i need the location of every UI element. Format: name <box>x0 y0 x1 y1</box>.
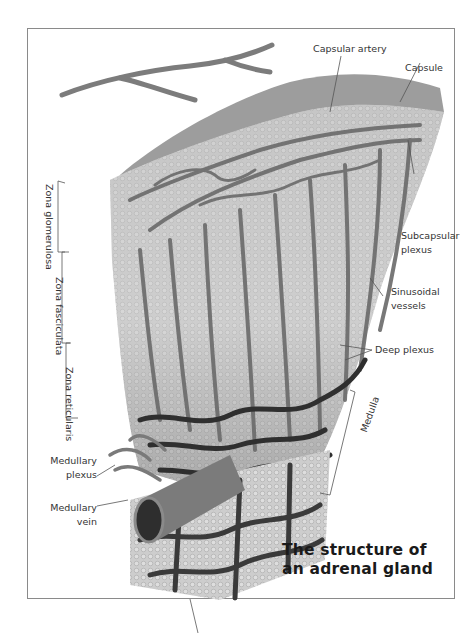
figure-title-line1: The structure of <box>282 541 433 560</box>
adrenal-gland-illustration <box>0 0 474 633</box>
label-zona-glomerulosa: Zona glomerulosa <box>44 184 55 270</box>
label-medullary-vein-line2: vein <box>40 516 97 528</box>
label-sinusoidal-vessels-line2: vessels <box>391 300 426 312</box>
label-zona-reticularis: Zona reticularis <box>64 367 75 441</box>
figure-title-line2: an adrenal gland <box>282 560 433 579</box>
label-deep-plexus: Deep plexus <box>375 344 434 356</box>
label-capsular-artery: Capsular artery <box>313 43 387 55</box>
figure-title: The structure of an adrenal gland <box>282 541 433 579</box>
label-sinusoidal-vessels-line1: Sinusoidal <box>391 286 440 298</box>
label-subcapsular-plexus-line1: Subcapsular <box>401 230 460 242</box>
capsular-artery-shape <box>62 45 272 100</box>
label-medullary-plexus-line2: plexus <box>40 469 97 481</box>
label-subcapsular-plexus-line2: plexus <box>401 244 432 256</box>
label-medullary-vein-line1: Medullary <box>40 502 97 514</box>
label-capsule: Capsule <box>405 62 443 74</box>
label-zona-fasciculata: Zona fasciculata <box>54 277 65 355</box>
label-medullary-plexus-line1: Medullary <box>40 455 97 467</box>
